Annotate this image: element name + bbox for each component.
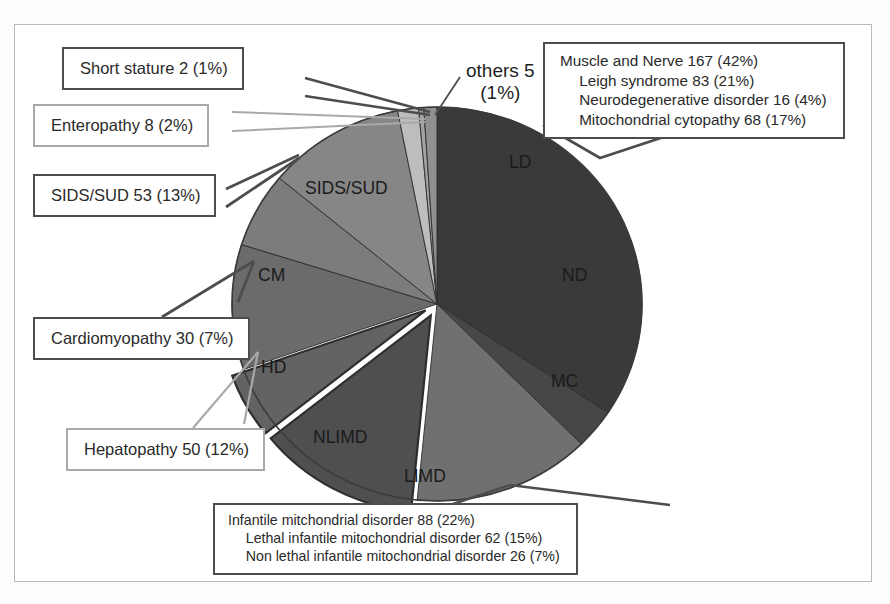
callout-muscle-nerve-line2: Leigh syndrome 83 (21%): [560, 71, 827, 91]
callout-short-stature: Short stature 2 (1%): [62, 47, 244, 90]
others-label-line1: others 5: [466, 60, 535, 81]
slice-label-mc: MC: [551, 371, 578, 392]
callout-sids-sud-line1: SIDS/SUD 53 (13%): [51, 185, 200, 206]
leader-line-short-stature-2: [305, 96, 430, 115]
callout-muscle-nerve-line1: Muscle and Nerve 167 (42%): [560, 51, 827, 71]
slice-label-limd: LIMD: [404, 466, 446, 487]
callout-cardiomyopathy: Cardiomyopathy 30 (7%): [33, 317, 250, 360]
callout-infantile-line1: Infantile mitchondrial disorder 88 (22%): [228, 511, 560, 529]
callout-muscle-nerve-line4: Mitochondrial cytopathy 68 (17%): [560, 110, 827, 130]
slice-label-nd: ND: [562, 265, 587, 286]
others-label-line2: (1%): [466, 82, 535, 104]
figure-canvas: LD ND MC LIMD NLIMD HD CM SIDS/SUD other…: [0, 0, 890, 604]
leader-line-short-stature: [305, 78, 430, 112]
callout-hepatopathy: Hepatopathy 50 (12%): [66, 428, 265, 471]
slice-label-nlimd: NLIMD: [313, 427, 367, 448]
callout-muscle-and-nerve: Muscle and Nerve 167 (42%) Leigh syndrom…: [543, 42, 845, 139]
callout-sids-sud: SIDS/SUD 53 (13%): [33, 174, 216, 217]
callout-infantile-mitochondrial-disorder: Infantile mitchondrial disorder 88 (22%)…: [213, 503, 578, 575]
slice-label-sids-sud: SIDS/SUD: [305, 178, 388, 199]
pie-slice-group: [232, 107, 642, 512]
callout-enteropathy-line1: Enteropathy 8 (2%): [51, 115, 193, 136]
callout-cardiomyopathy-line1: Cardiomyopathy 30 (7%): [51, 328, 234, 349]
callout-infantile-line2: Lethal infantile mitochondrial disorder …: [228, 529, 560, 547]
callout-muscle-nerve-line3: Neurodegenerative disorder 16 (4%): [560, 90, 827, 110]
callout-enteropathy: Enteropathy 8 (2%): [33, 104, 209, 147]
slice-label-others: others 5 (1%): [466, 60, 535, 105]
callout-short-stature-line1: Short stature 2 (1%): [80, 58, 228, 79]
callout-hepatopathy-line1: Hepatopathy 50 (12%): [84, 439, 249, 460]
slice-label-hd: HD: [261, 357, 286, 378]
callout-infantile-line3: Non lethal infantile mitochondrial disor…: [228, 547, 560, 565]
slice-label-cm: CM: [258, 265, 285, 286]
slice-label-ld: LD: [509, 152, 531, 173]
